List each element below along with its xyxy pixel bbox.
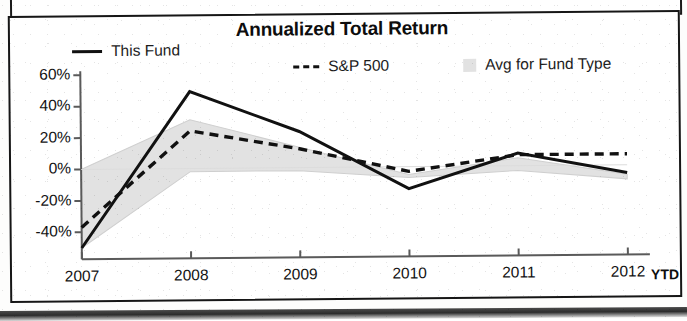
x-tick-label: 2007 [50, 267, 114, 286]
x-tick-label: 2010 [378, 264, 442, 283]
x-axis-ytd-label: YTD [651, 266, 679, 282]
avg-for-fund-type-band [81, 116, 628, 248]
scan-bottom-edge [0, 307, 687, 321]
x-tick-label: 2009 [268, 265, 332, 284]
x-tick-label: 2008 [159, 266, 223, 285]
plot-area [8, 10, 678, 299]
annualized-total-return-chart: Annualized Total Return This Fund S&P 50… [8, 10, 678, 299]
y-tick-label: 60% [12, 65, 70, 84]
x-tick-label: 2011 [487, 263, 551, 282]
y-tick-label: 40% [12, 97, 70, 116]
y-tick-label: -40% [14, 222, 72, 241]
y-tick-label: 0% [13, 160, 71, 179]
y-tick-label: 20% [13, 128, 71, 147]
y-tick-label: -20% [13, 191, 71, 210]
